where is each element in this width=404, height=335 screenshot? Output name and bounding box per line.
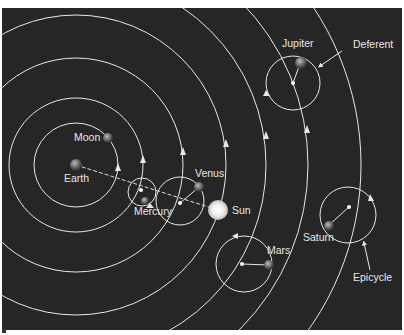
- label-earth: Earth: [64, 172, 89, 184]
- label-epicycle: Epicycle: [353, 271, 392, 283]
- label-deferent: Deferent: [353, 38, 393, 50]
- deferent-circles: [2, 8, 361, 330]
- label-jupiter: Jupiter: [282, 37, 314, 49]
- label-saturn: Saturn: [303, 231, 334, 243]
- diagram-panel: Moon Earth Mercury Venus Sun Mars Jupite…: [2, 8, 402, 330]
- label-venus: Venus: [195, 167, 224, 179]
- label-mars: Mars: [267, 244, 290, 256]
- label-mercury: Mercury: [134, 205, 172, 217]
- label-moon: Moon: [74, 131, 100, 143]
- footer-mark: [2, 329, 6, 333]
- label-sun: Sun: [232, 204, 251, 216]
